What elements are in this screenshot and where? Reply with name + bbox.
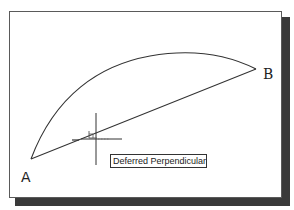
- point-label-b: B: [263, 67, 273, 81]
- drawing-canvas[interactable]: [0, 0, 294, 210]
- snap-tooltip: Deferred Perpendicular: [110, 154, 207, 168]
- line-a-b: [31, 69, 256, 159]
- point-label-a: A: [21, 170, 31, 184]
- arc-curve: [31, 53, 256, 159]
